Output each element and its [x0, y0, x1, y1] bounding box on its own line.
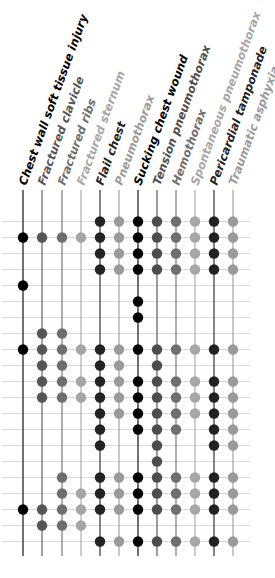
presence-dot — [133, 392, 143, 402]
presence-dot — [171, 424, 181, 434]
presence-dot — [37, 392, 47, 402]
presence-dot — [114, 536, 124, 546]
presence-dot — [228, 536, 238, 546]
column-stems — [23, 190, 233, 556]
presence-dot — [95, 488, 105, 498]
presence-dot — [152, 344, 162, 354]
presence-dot — [152, 392, 162, 402]
presence-dot — [57, 376, 67, 386]
presence-dot — [228, 232, 238, 242]
presence-dot — [209, 536, 219, 546]
presence-dot — [190, 248, 200, 258]
presence-dot — [133, 504, 143, 514]
presence-dot — [114, 216, 124, 226]
presence-dot — [152, 488, 162, 498]
presence-dot — [209, 408, 219, 418]
presence-dot — [152, 408, 162, 418]
presence-dot — [190, 488, 200, 498]
presence-dot — [95, 248, 105, 258]
presence-dot — [133, 296, 143, 306]
presence-dot — [76, 376, 86, 386]
presence-dot — [133, 264, 143, 274]
presence-dot — [190, 232, 200, 242]
presence-dot — [37, 520, 47, 530]
presence-dot — [171, 344, 181, 354]
presence-dot — [133, 312, 143, 322]
presence-dot — [190, 264, 200, 274]
presence-dot — [190, 216, 200, 226]
presence-dot — [95, 536, 105, 546]
presence-dot — [152, 248, 162, 258]
presence-dot — [152, 472, 162, 482]
presence-dot — [37, 344, 47, 354]
presence-dot — [114, 392, 124, 402]
presence-dot — [76, 520, 86, 530]
presence-dot — [171, 408, 181, 418]
presence-dot — [152, 536, 162, 546]
presence-dot — [171, 376, 181, 386]
presence-dot — [133, 376, 143, 386]
presence-dot — [152, 456, 162, 466]
presence-dot — [228, 264, 238, 274]
presence-dot — [57, 344, 67, 354]
presence-dot — [171, 392, 181, 402]
presence-dot — [152, 504, 162, 514]
presence-dot — [37, 376, 47, 386]
presence-dot — [95, 392, 105, 402]
presence-dot — [133, 248, 143, 258]
presence-dot — [57, 360, 67, 370]
presence-dot — [209, 472, 219, 482]
presence-dot — [133, 472, 143, 482]
presence-dot — [228, 376, 238, 386]
presence-dot — [209, 344, 219, 354]
presence-dot — [133, 232, 143, 242]
presence-dot — [171, 232, 181, 242]
presence-dot — [18, 344, 28, 354]
presence-dot — [190, 392, 200, 402]
presence-dot — [95, 344, 105, 354]
presence-dot — [190, 408, 200, 418]
presence-dot — [114, 376, 124, 386]
presence-dot — [209, 504, 219, 514]
presence-dot — [228, 472, 238, 482]
presence-dot — [152, 360, 162, 370]
presence-dot — [228, 248, 238, 258]
presence-dot — [209, 248, 219, 258]
presence-dot — [37, 328, 47, 338]
presence-dot — [209, 264, 219, 274]
presence-dot — [228, 344, 238, 354]
presence-dot — [133, 344, 143, 354]
presence-dot — [228, 424, 238, 434]
presence-dot — [114, 472, 124, 482]
presence-dot — [152, 376, 162, 386]
presence-dot — [95, 440, 105, 450]
presence-dot — [228, 216, 238, 226]
presence-dot — [152, 424, 162, 434]
presence-dot — [190, 504, 200, 514]
presence-dot — [228, 488, 238, 498]
presence-dot — [95, 232, 105, 242]
presence-dot — [171, 488, 181, 498]
presence-dot — [152, 440, 162, 450]
presence-dot — [152, 232, 162, 242]
presence-dot — [95, 376, 105, 386]
presence-dot — [152, 216, 162, 226]
presence-dot — [209, 440, 219, 450]
presence-dot — [57, 232, 67, 242]
presence-dot — [209, 232, 219, 242]
presence-dot — [18, 280, 28, 290]
presence-dot — [95, 504, 105, 514]
presence-dot — [209, 392, 219, 402]
presence-dot — [114, 408, 124, 418]
presence-dot — [18, 504, 28, 514]
presence-dot — [37, 232, 47, 242]
presence-dot — [95, 216, 105, 226]
presence-dot — [37, 504, 47, 514]
presence-dot — [18, 232, 28, 242]
presence-dot — [37, 360, 47, 370]
presence-dot — [209, 424, 219, 434]
presence-dot — [95, 472, 105, 482]
presence-dot — [190, 536, 200, 546]
presence-dot — [171, 264, 181, 274]
presence-dot — [228, 408, 238, 418]
